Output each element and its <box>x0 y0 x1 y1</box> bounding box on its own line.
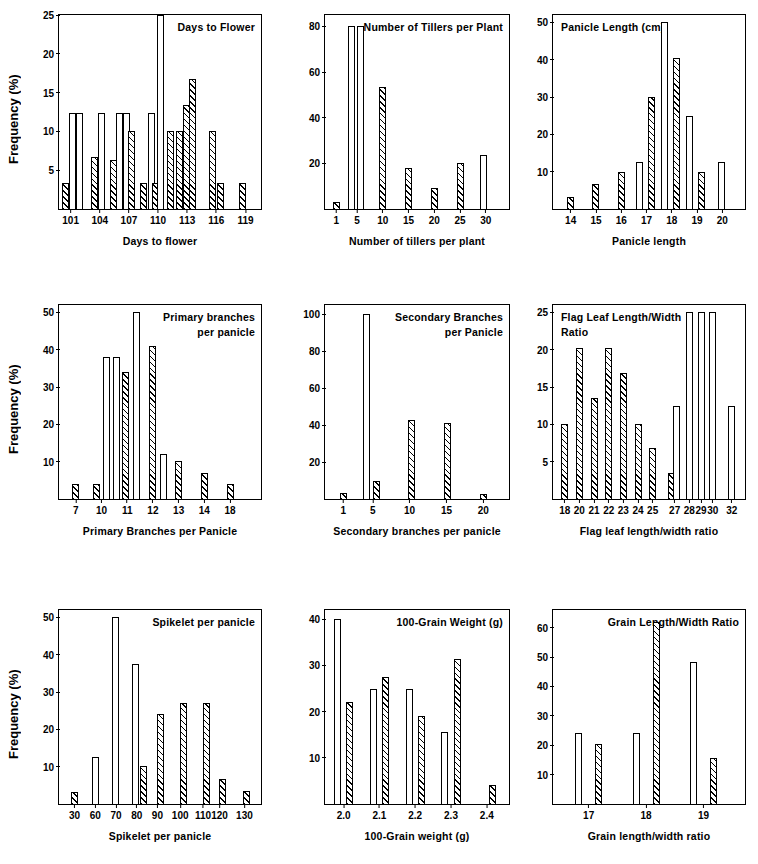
histogram-bar <box>132 664 139 804</box>
plot-area: Panicle Length (cm) 10203040501415161718… <box>552 14 746 210</box>
y-axis-tick-label: 15 <box>43 87 59 98</box>
y-axis-tick-label: 40 <box>537 54 553 65</box>
y-axis-tick-label: 50 <box>43 612 59 623</box>
x-axis-tick-label: 28 <box>684 499 695 516</box>
x-axis-tick-label: 1 <box>341 499 347 516</box>
x-axis-tick-label: 18 <box>641 804 652 821</box>
histogram-bar <box>217 183 224 209</box>
plot-area-wrapper: Flag Leaf Length/Width Ratio 51015202518… <box>552 304 746 500</box>
figure-row-1: Frequency (%) Days to Flower 51015202510… <box>0 0 758 288</box>
y-axis-tick-label: 60 <box>309 67 325 78</box>
panel-100-grain-weight: 100-Grain Weight (g) 102030402.02.12.22.… <box>288 595 516 864</box>
histogram-bar <box>673 406 680 499</box>
histogram-bar <box>175 461 182 499</box>
x-axis-tick-label: 10 <box>404 499 415 516</box>
histogram-bar <box>92 757 99 804</box>
x-axis-tick-label: 2.4 <box>480 804 494 821</box>
y-axis-tick-label: 30 <box>43 687 59 698</box>
bars-layer <box>325 305 509 499</box>
x-axis-tick-label: 60 <box>90 804 101 821</box>
x-axis-tick-label: 20 <box>429 209 440 226</box>
histogram-bar <box>567 197 574 209</box>
x-axis-tick-label: 25 <box>647 499 658 516</box>
x-axis-tick-label: 5 <box>370 499 376 516</box>
y-axis-tick-label: 30 <box>537 710 553 721</box>
x-axis-tick-label: 30 <box>480 209 491 226</box>
plot-area: Grain Length/Width Ratio 102030405060171… <box>552 609 746 805</box>
x-axis-tick-label: 27 <box>669 499 680 516</box>
histogram-bar <box>605 348 612 499</box>
histogram-bar <box>128 131 135 209</box>
y-axis-tick-label: 5 <box>48 165 59 176</box>
histogram-bar <box>441 732 448 804</box>
y-axis-tick-label: 80 <box>309 346 325 357</box>
histogram-bar <box>431 188 438 209</box>
x-axis-tick-label: 15 <box>441 499 452 516</box>
y-axis-tick-label: 100 <box>303 309 325 320</box>
plot-area: Secondary Branches per Panicle 204060801… <box>324 304 510 500</box>
y-axis-tick-label: 80 <box>309 21 325 32</box>
y-axis-tick-label: 40 <box>43 344 59 355</box>
histogram-bar <box>636 162 643 209</box>
x-axis-tick-label: 14 <box>565 209 576 226</box>
x-axis-tick-label: 16 <box>616 209 627 226</box>
x-axis-tick-label: 24 <box>632 499 643 516</box>
plot-area-wrapper: Panicle Length (cm) 10203040501415161718… <box>552 14 746 210</box>
plot-area-wrapper: Spikelet per panicle 1020304050306070809… <box>58 609 262 805</box>
histogram-bar <box>71 792 78 804</box>
histogram-bar <box>133 312 140 499</box>
histogram-bar <box>333 202 340 209</box>
y-axis-tick-label: 30 <box>43 382 59 393</box>
histogram-bar <box>480 155 487 209</box>
x-axis-tick-label: 11 <box>122 499 133 516</box>
plot-area-wrapper: Primary branches per panicle 10203040507… <box>58 304 262 500</box>
panel-primary-branches: Frequency (%) Primary branches per panic… <box>0 290 288 578</box>
x-axis-tick-label: 113 <box>179 209 195 226</box>
bars-layer <box>59 305 261 499</box>
x-axis-tick-label: 2.0 <box>337 804 351 821</box>
histogram-bar <box>370 689 377 804</box>
histogram-bar <box>649 448 656 499</box>
x-axis-tick-label: 100 <box>172 804 189 821</box>
plot-area-wrapper: 100-Grain Weight (g) 102030402.02.12.22.… <box>324 609 510 805</box>
figure-histogram-grid: Frequency (%) Days to Flower 51015202510… <box>0 0 758 864</box>
x-axis-tick-label: 30 <box>707 499 718 516</box>
x-axis-tick-label: 30 <box>69 804 80 821</box>
y-axis-tick-label: 10 <box>43 456 59 467</box>
bars-layer <box>325 15 509 209</box>
x-axis-title: Days to flower <box>123 235 198 247</box>
histogram-bar <box>189 79 196 209</box>
x-axis-tick-label: 101 <box>62 209 79 226</box>
y-axis-tick-label: 5 <box>542 456 553 467</box>
y-axis-tick-label: 20 <box>43 724 59 735</box>
x-axis-tick-label: 21 <box>588 499 599 516</box>
x-axis-tick-label: 116 <box>208 209 224 226</box>
histogram-bar <box>122 372 129 499</box>
x-axis-tick-label: 17 <box>583 804 594 821</box>
histogram-bar <box>575 733 582 804</box>
histogram-bar <box>633 733 640 804</box>
histogram-bar <box>709 312 716 499</box>
y-axis-tick-label: 40 <box>309 420 325 431</box>
y-axis-tick-label: 20 <box>537 344 553 355</box>
x-axis-title: Spikelet per panicle <box>109 830 212 842</box>
y-axis-tick-label: 20 <box>43 419 59 430</box>
histogram-bar <box>219 779 226 804</box>
x-axis-tick-label: 32 <box>726 499 737 516</box>
x-axis-tick-label: 17 <box>641 209 652 226</box>
histogram-bar <box>140 183 147 209</box>
y-axis-title: Frequency (%) <box>2 334 24 484</box>
panel-days-to-flower: Frequency (%) Days to Flower 51015202510… <box>0 0 288 288</box>
histogram-bar <box>357 26 364 209</box>
panel-secondary-branches: Secondary Branches per Panicle 204060801… <box>288 290 516 578</box>
bars-layer <box>325 610 509 804</box>
histogram-bar <box>561 424 568 499</box>
histogram-bar <box>620 373 627 499</box>
histogram-bar <box>379 87 386 209</box>
histogram-bar <box>203 703 210 804</box>
y-axis-tick-label: 10 <box>309 752 325 763</box>
panel-spikelet-per-panicle: Frequency (%) Spikelet per panicle 10203… <box>0 595 288 864</box>
x-axis-title: Primary Branches per Panicle <box>83 525 237 537</box>
x-axis-tick-label: 13 <box>173 499 184 516</box>
histogram-bar <box>227 484 234 499</box>
